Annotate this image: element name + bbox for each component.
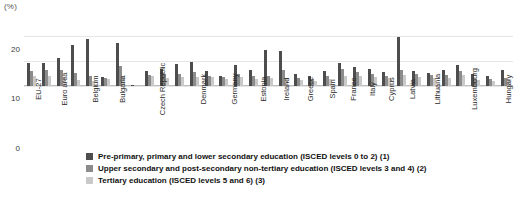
- legend-item[interactable]: Upper secondary and post-secondary non-t…: [86, 164, 427, 173]
- legend-swatch-icon: [86, 165, 93, 172]
- bar-group: [365, 24, 380, 86]
- legend-item[interactable]: Tertiary education (ISCED levels 5 and 6…: [86, 176, 427, 185]
- bar-group: [454, 24, 469, 86]
- x-axis-label: Spain: [319, 87, 338, 145]
- bar: [151, 76, 154, 86]
- bar: [344, 76, 347, 86]
- y-axis-tick-20: 20: [11, 44, 20, 53]
- x-axis-label: Ireland: [272, 87, 295, 145]
- x-axis-label-text: Euro area: [62, 73, 70, 106]
- bar: [225, 79, 228, 86]
- x-axis-label-text: France: [350, 77, 358, 100]
- x-axis-label: Italy: [362, 87, 376, 145]
- y-axis-unit-label: (%): [4, 2, 17, 11]
- y-axis-tick-10: 10: [11, 94, 20, 103]
- legend-item[interactable]: Pre-primary, primary and lower secondary…: [86, 152, 427, 161]
- legend-swatch-icon: [86, 153, 93, 160]
- x-axis-label: Belgium: [78, 87, 105, 145]
- education-unemployment-bar-chart: (%) 01020 EU-27Euro areaBelgiumBulgariaC…: [0, 0, 517, 198]
- bar-group: [335, 24, 350, 86]
- x-axis-label: Luxembourg: [450, 87, 492, 145]
- x-axis-label: Hungary: [491, 87, 517, 145]
- legend-swatch-icon: [86, 177, 93, 184]
- x-axis-label-text: Germany: [231, 74, 239, 105]
- x-axis-label-text: Ireland: [283, 78, 291, 101]
- x-axis-label-text: Latvia: [409, 79, 417, 99]
- x-axis-label: EU-27: [24, 87, 45, 145]
- bar-group: [128, 24, 143, 86]
- x-axis-label: Bulgaria: [105, 87, 133, 145]
- bar-group: [409, 24, 424, 86]
- bar: [107, 79, 110, 86]
- x-axis-label-text: Cyprus: [387, 77, 395, 101]
- bar-group: [143, 24, 158, 86]
- x-axis-label: Czech Republic: [133, 87, 186, 145]
- bar: [131, 85, 134, 86]
- bar: [211, 77, 214, 86]
- x-axis-label: Euro area: [45, 87, 78, 145]
- bar: [462, 75, 465, 86]
- bar: [418, 77, 421, 86]
- bar: [492, 81, 495, 86]
- bar-group: [24, 24, 39, 86]
- x-axis-label-text: Greece: [307, 77, 315, 102]
- chart-legend: Pre-primary, primary and lower secondary…: [86, 152, 427, 185]
- bar-group: [39, 24, 54, 86]
- x-axis-label-text: Belgium: [92, 75, 100, 102]
- bar: [359, 76, 362, 86]
- x-axis-label: France: [338, 87, 361, 145]
- x-axis-label: Lithuania: [419, 87, 449, 145]
- y-axis-tick-0: 0: [16, 144, 20, 153]
- bar: [48, 76, 51, 86]
- bar-group: [68, 24, 83, 86]
- x-axis-category-labels: EU-27Euro areaBelgiumBulgariaCzech Repub…: [24, 87, 513, 145]
- x-axis-label-text: Czech Republic: [159, 63, 167, 116]
- bar: [181, 77, 184, 86]
- bar-group: [394, 24, 409, 86]
- bar-group: [291, 24, 306, 86]
- legend-label: Pre-primary, primary and lower secondary…: [98, 152, 390, 161]
- bar: [240, 77, 243, 86]
- bar: [448, 78, 451, 86]
- x-axis-label: Estonia: [247, 87, 272, 145]
- bar: [403, 75, 406, 86]
- bar-group: [217, 24, 232, 86]
- x-axis-label-text: Lithuania: [435, 74, 443, 104]
- x-axis-label-text: Hungary: [506, 75, 514, 103]
- x-axis-label-text: Denmark: [201, 74, 209, 104]
- bar-group: [172, 24, 187, 86]
- bar: [270, 78, 273, 86]
- bar-group: [320, 24, 335, 86]
- x-axis-label: Germany: [216, 87, 247, 145]
- x-axis-label-text: EU-27: [35, 78, 43, 99]
- x-axis-label-text: Luxembourg: [471, 68, 479, 110]
- x-axis-label: Denmark: [185, 87, 215, 145]
- x-axis-label-text: Estonia: [259, 76, 267, 101]
- x-axis-label: Latvia: [399, 87, 419, 145]
- x-axis-label: Greece: [295, 87, 320, 145]
- bar-group: [98, 24, 113, 86]
- legend-label: Upper secondary and post-secondary non-t…: [98, 164, 427, 173]
- x-axis-label-text: Spain: [329, 79, 337, 98]
- x-axis-label: Cyprus: [376, 87, 400, 145]
- bar-group: [483, 24, 498, 86]
- x-axis-label-text: Bulgaria: [119, 75, 127, 103]
- bar: [77, 80, 80, 86]
- bar: [300, 80, 303, 86]
- legend-label: Tertiary education (ISCED levels 5 and 6…: [98, 176, 265, 185]
